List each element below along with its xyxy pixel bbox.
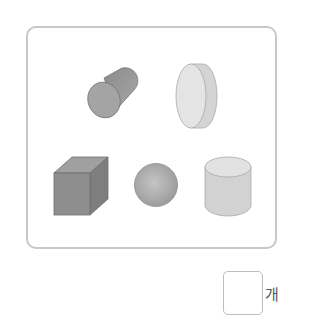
answer-input-box[interactable] xyxy=(223,271,263,315)
unit-label: 개 xyxy=(265,283,279,304)
cylinder-upright-shape xyxy=(203,155,253,219)
disc-cylinder-shape xyxy=(171,62,221,130)
cube-shape xyxy=(50,155,112,219)
sphere-shape xyxy=(133,162,179,208)
cylinder-tilted-shape xyxy=(82,64,142,126)
